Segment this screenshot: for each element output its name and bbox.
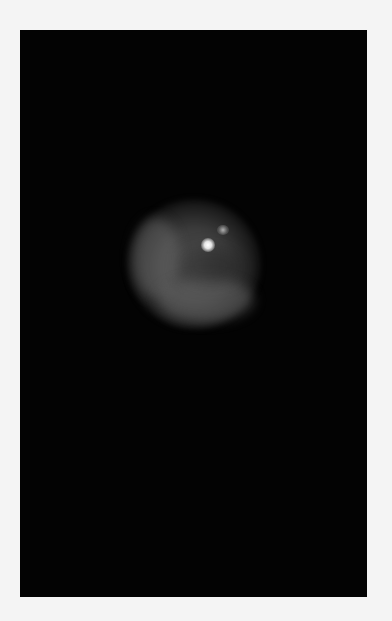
microscopy-image-frame <box>20 30 367 597</box>
nucleus-dark-region <box>180 248 242 284</box>
nucleus-lobe-bottom <box>158 278 254 322</box>
bright-fluorescent-spot <box>201 238 215 252</box>
dim-fluorescent-spot <box>217 225 229 235</box>
